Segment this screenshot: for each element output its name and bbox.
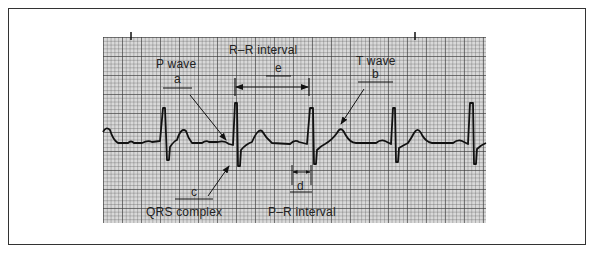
t-wave-letter: b xyxy=(372,68,379,80)
p-wave-label: P wave xyxy=(156,58,196,70)
p-wave-letter: a xyxy=(174,73,181,85)
rr-interval-letter: e xyxy=(275,62,282,74)
rr-interval-label: R–R interval xyxy=(229,44,297,56)
qrs-complex-label: QRS complex xyxy=(146,206,222,218)
ecg-trace xyxy=(103,103,486,166)
qrs-arrow xyxy=(208,166,229,196)
t-wave-label: T wave xyxy=(356,55,396,67)
p-wave-arrow xyxy=(190,95,226,140)
pr-interval-label: P–R interval xyxy=(268,206,336,218)
qrs-letter: c xyxy=(191,186,197,198)
pr-letter: d xyxy=(297,180,304,192)
t-wave-arrow xyxy=(341,89,364,124)
